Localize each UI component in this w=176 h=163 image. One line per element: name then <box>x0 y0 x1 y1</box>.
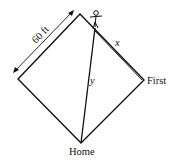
y-label: y <box>89 75 95 86</box>
home-plate-label: Home <box>69 146 95 157</box>
baseball-diamond-diagram: 60 ft x y First Home <box>0 0 176 163</box>
dimension-arrow <box>13 10 74 73</box>
side-length-label: 60 ft <box>30 24 52 46</box>
x-label: x <box>114 37 120 48</box>
first-base-label: First <box>147 75 166 86</box>
